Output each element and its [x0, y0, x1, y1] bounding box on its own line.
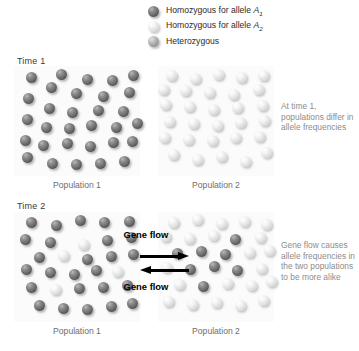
legend-label-homozygous-a1: Homozygous for allele A1 [166, 5, 263, 19]
individual-sphere-dark [132, 118, 143, 129]
individual-sphere-light [216, 218, 227, 229]
individual-sphere-light [230, 132, 241, 143]
individual-sphere-dark [85, 141, 96, 152]
individual-sphere-dark [23, 93, 34, 104]
individual-sphere-dark [26, 217, 37, 228]
gene-flow-label-bottom: Gene flow [123, 282, 169, 293]
individual-sphere-light [232, 102, 243, 113]
individual-sphere-light [78, 239, 89, 250]
individual-sphere-light [188, 118, 199, 129]
individual-sphere-light [254, 131, 265, 142]
individual-sphere-dark [51, 220, 62, 231]
individual-sphere-light [259, 115, 270, 126]
individual-sphere-light [50, 284, 61, 295]
individual-sphere-dark [124, 87, 135, 98]
individual-sphere-dark [82, 74, 93, 85]
individual-sphere-light [222, 278, 233, 289]
individual-sphere-light [164, 116, 175, 127]
individual-sphere-light [257, 100, 268, 111]
population-panel-time2-pop1 [14, 212, 140, 322]
gene-flow-arrow-left-icon [140, 266, 189, 275]
individual-sphere-light [192, 154, 203, 165]
population-panel-time1-pop1 [14, 66, 140, 176]
individual-sphere-dark [67, 107, 78, 118]
individual-sphere-light [244, 247, 255, 258]
population-caption-time2-pop1: Population 1 [14, 326, 140, 336]
individual-sphere-dark [62, 138, 73, 149]
legend-label-homozygous-a2: Homozygous for allele A2 [166, 20, 263, 34]
individual-sphere-light [213, 69, 224, 80]
individual-sphere-dark [20, 135, 31, 146]
individual-sphere-dark [47, 158, 58, 169]
individual-sphere-light [190, 73, 201, 84]
individual-sphere-dark [21, 264, 32, 275]
individual-sphere-dark [95, 158, 106, 169]
individual-sphere-dark [232, 265, 243, 276]
population-caption-time1-pop1: Population 1 [14, 180, 140, 190]
individual-sphere-light [184, 101, 195, 112]
time-2-label: Time 2 [17, 201, 45, 211]
individual-sphere-dark [34, 252, 45, 263]
individual-sphere-light [192, 214, 203, 225]
individual-sphere-light [204, 87, 215, 98]
individual-sphere-dark [58, 303, 69, 314]
individual-sphere-light [235, 300, 246, 311]
individual-sphere-light [168, 149, 179, 160]
individual-sphere-dark [38, 140, 49, 151]
individual-sphere-dark [128, 70, 139, 81]
individual-sphere-light [159, 132, 170, 143]
legend-sphere-light-icon [148, 21, 159, 32]
individual-sphere-light [187, 299, 198, 310]
individual-sphere-light [246, 280, 257, 291]
individual-sphere-light [163, 296, 174, 307]
caption-time2: Gene flow causes allele frequencies in t… [281, 240, 359, 282]
individual-sphere-light [160, 99, 171, 110]
legend-sphere-hetero-icon [148, 36, 159, 47]
time-1-label: Time 1 [17, 56, 45, 66]
individual-sphere-dark [107, 75, 118, 86]
individual-sphere-light [266, 276, 277, 287]
caption-time1: At time 1, populations differ in allele … [281, 101, 357, 133]
individual-sphere-dark [127, 136, 138, 147]
individual-sphere-dark [45, 267, 56, 278]
individual-sphere-light [168, 217, 179, 228]
legend-sphere-dark-icon [148, 6, 159, 17]
individual-sphere-dark [46, 82, 57, 93]
individual-sphere-dark [196, 246, 207, 257]
individual-sphere-dark [71, 88, 82, 99]
individual-sphere-dark [86, 120, 97, 131]
individual-sphere-dark [41, 122, 52, 133]
individual-sphere-dark [69, 269, 80, 280]
legend-item-heterozygous: Heterozygous [148, 34, 356, 49]
individual-sphere-light [228, 89, 239, 100]
arrow-head [178, 252, 189, 260]
individual-sphere-dark [108, 137, 119, 148]
individual-sphere-dark [44, 103, 55, 114]
individual-sphere-dark [64, 123, 75, 134]
individual-sphere-light [261, 147, 272, 158]
individual-sphere-dark [74, 283, 85, 294]
individual-sphere-dark [209, 261, 220, 272]
individual-sphere-dark [102, 235, 113, 246]
individual-sphere-light [180, 85, 191, 96]
individual-sphere-dark [106, 301, 117, 312]
individual-sphere-light [58, 250, 69, 261]
individual-sphere-dark [22, 152, 33, 163]
gene-flow-arrow-right-icon [140, 252, 189, 261]
individual-sphere-dark [124, 216, 135, 227]
individual-sphere-dark [127, 298, 138, 309]
individual-sphere-light [112, 266, 123, 277]
individual-sphere-dark [119, 156, 130, 167]
legend-item-homozygous-a2: Homozygous for allele A2 [148, 19, 356, 34]
individual-sphere-light [208, 104, 219, 115]
individual-sphere-light [212, 120, 223, 131]
individual-sphere-dark [118, 106, 129, 117]
gene-flow-label-top: Gene flow [123, 230, 169, 241]
individual-sphere-dark [98, 282, 109, 293]
individual-sphere-light [258, 70, 269, 81]
individual-sphere-dark [82, 304, 93, 315]
individual-sphere-dark [82, 254, 93, 265]
individual-sphere-dark [91, 265, 102, 276]
individual-sphere-dark [26, 282, 37, 293]
individual-sphere-light [208, 230, 219, 241]
